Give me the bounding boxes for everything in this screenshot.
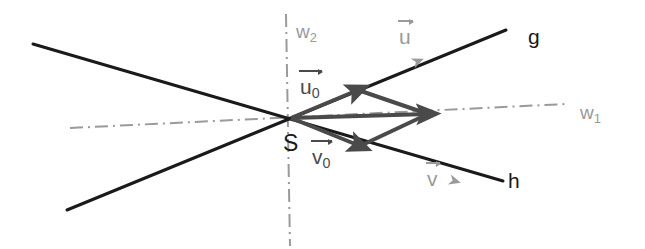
vector-v0-parallel [358,90,428,114]
vector-u0-parallel [360,114,428,146]
line-label-h: h [508,170,520,191]
line-label-w2: w2 [296,22,317,45]
geometry-svg [0,0,645,249]
line-label-g: g [528,26,540,47]
vector-sum [291,114,428,118]
diagram-canvas: S g h w1 w2 u0 v0 u v [0,0,645,249]
line-label-w1: w1 [580,103,601,126]
vector-label-v0: v0 [312,146,330,170]
line-h [33,44,503,181]
vector-label-v: v [427,168,438,189]
vector-label-u: u [399,26,411,47]
direction-marker-v [448,174,462,187]
point-label-S: S [283,132,298,155]
vector-label-u0: u0 [300,76,320,100]
vector-v0 [291,118,360,146]
